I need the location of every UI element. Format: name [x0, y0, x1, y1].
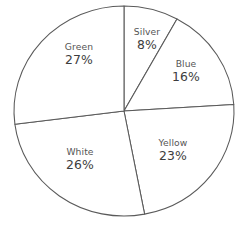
pie-slice-green	[14, 6, 124, 124]
pie-slice-white	[15, 111, 145, 216]
pie-chart: Silver 8% Blue 16% Yellow 23% White 26% …	[0, 0, 243, 227]
pie-slice-group	[14, 6, 234, 216]
pie-chart-canvas	[0, 0, 243, 227]
